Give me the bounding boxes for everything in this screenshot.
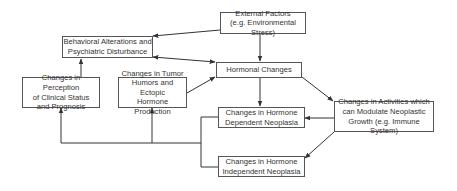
node-hormonal-changes: Hormonal Changes: [216, 62, 302, 78]
node-modulating-activities: Changes in Activities which can Modulate…: [334, 101, 434, 132]
node-label: Changes in Perception of Clinical Status…: [23, 73, 99, 111]
node-label: Hormonal Changes: [226, 65, 291, 75]
node-tumor-humors: Changes in Tumor Humors and Ectopic Horm…: [118, 77, 187, 108]
node-label: Behavioral Alterations and Psychiatric D…: [63, 37, 151, 56]
node-behavioral-alterations: Behavioral Alterations and Psychiatric D…: [62, 36, 153, 58]
edge-activities-independent: [305, 132, 334, 158]
edge-external-behavioral: [153, 30, 220, 36]
edge-tumor-hormonal: [187, 77, 215, 93]
edge-feedback-bus: [201, 117, 218, 167]
edge-behavioral-hormonal: [153, 57, 215, 62]
node-perception-changes: Changes in Perception of Clinical Status…: [22, 77, 100, 108]
node-label: Changes in Hormone Dependent Neoplasia: [225, 108, 298, 127]
node-label: Changes in Hormone Independent Neoplasia: [222, 157, 300, 176]
node-external-factors: External Factors (e.g. Environmental Str…: [220, 12, 306, 34]
node-hormone-dependent-neoplasia: Changes in Hormone Dependent Neoplasia: [218, 107, 305, 128]
edge-hormonal-activities: [302, 77, 333, 101]
diagram-canvas: External Factors (e.g. Environmental Str…: [0, 0, 457, 191]
node-hormone-independent-neoplasia: Changes in Hormone Independent Neoplasia: [218, 156, 305, 177]
node-label: Changes in Tumor Humors and Ectopic Horm…: [119, 69, 186, 117]
node-label: External Factors (e.g. Environmental Str…: [221, 9, 305, 38]
node-label: Changes in Activities which can Modulate…: [335, 97, 433, 135]
